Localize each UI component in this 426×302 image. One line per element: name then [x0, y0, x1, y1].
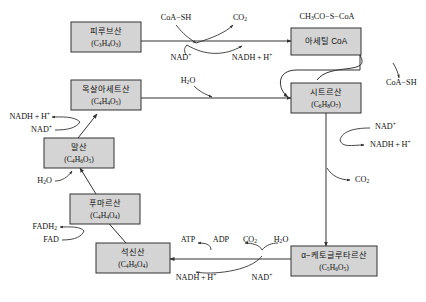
- curve-coash-out: [393, 63, 399, 78]
- label-nad-succinyl: NAD+: [252, 272, 273, 282]
- label-fadh2: FADH2: [33, 222, 58, 231]
- curve-fad-in: [62, 231, 84, 240]
- curve-fadh2-out: [60, 227, 84, 231]
- label-nad-malate: NAD+: [31, 124, 52, 134]
- label-coash-top: CoA−SH: [161, 13, 192, 22]
- acetyl-coa-structure-label: CH3CO−S−CoA: [300, 12, 355, 21]
- label-atp: ATP: [181, 235, 196, 244]
- label-h2o-succinyl: H2O: [274, 235, 289, 244]
- box-citric-acid-label: 시트르산: [310, 87, 342, 97]
- curve-nadh-malate-out: [52, 117, 80, 122]
- box-acetyl-coa-label: 아세틸 CoA: [305, 36, 348, 46]
- line-acetylcoa-branch: [317, 55, 362, 80]
- box-fumaric-acid-label: 푸마르산: [89, 198, 121, 208]
- label-nad-top: NAD+: [171, 52, 192, 62]
- label-adp: ADP: [213, 235, 230, 244]
- arrow-malate-to-oxaloacetate: [78, 114, 97, 138]
- box-oxaloacetic-acid-label: 옥살아세트산: [82, 84, 130, 94]
- box-alpha-ketoglutaric-acid-label: α−케토글루타르산: [301, 250, 367, 260]
- curve-to-co2: [196, 25, 233, 43]
- label-co2-succinyl: CO2: [243, 235, 257, 244]
- krebs-cycle-diagram: 피루브산 (C3H4O3) 아세틸 CoA CH3CO−S−CoA 옥살아세트산…: [0, 0, 426, 302]
- label-h2o-citrate: H2O: [181, 76, 196, 85]
- box-pyruvic-acid-label: 피루브산: [90, 26, 122, 36]
- krebs-cycle-svg: 피루브산 (C3H4O3) 아세틸 CoA CH3CO−S−CoA 옥살아세트산…: [0, 0, 426, 302]
- label-fad: FAD: [43, 235, 59, 244]
- curve-co2-citrate: [327, 168, 350, 180]
- label-coash-right: CoA−SH: [386, 78, 417, 87]
- curve-nad-citrate-in: [340, 128, 370, 140]
- box-succinic-acid-label: 석신산: [121, 247, 145, 257]
- label-nadh-malate: NADH + H+: [9, 111, 50, 121]
- label-co2-top: CO2: [233, 13, 247, 22]
- curve-coash-in: [176, 25, 196, 43]
- arrow-fumarate-to-malate: [80, 168, 96, 194]
- curve-nad-malate-in: [55, 122, 80, 130]
- label-nad-citrate: NAD+: [375, 121, 396, 131]
- label-nadh-citrate: NADH + H+: [370, 139, 411, 149]
- label-co2-citrate: CO2: [355, 175, 369, 184]
- curve-nadh-citrate-out: [340, 140, 364, 146]
- curve-to-co2-succinyl: [245, 243, 262, 250]
- curve-h2o-in-succinyl: [262, 243, 278, 250]
- curve-adp-to-atp: [198, 243, 211, 250]
- label-nadh-succinyl: NADH + H+: [176, 272, 217, 282]
- curve-h2o-citrate: [194, 86, 212, 97]
- box-malic-acid-label: 말산: [71, 142, 87, 152]
- label-nadh-top: NADH + H+: [232, 52, 273, 62]
- label-h2o-fumarate: H2O: [37, 176, 52, 185]
- curve-h2o-fumarate: [55, 171, 72, 181]
